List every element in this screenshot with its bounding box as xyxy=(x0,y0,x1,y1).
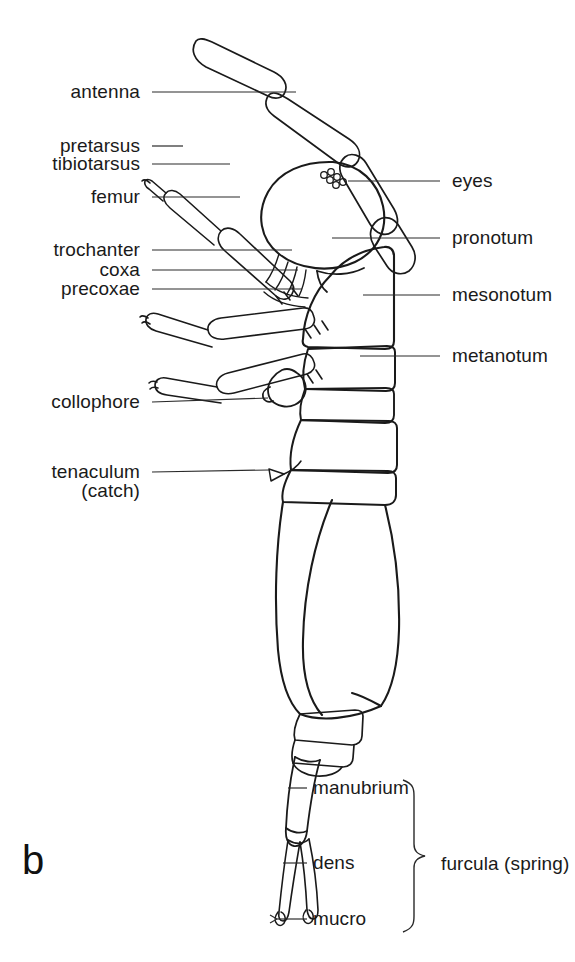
anatomy-label-dens: dens xyxy=(313,852,355,873)
anatomy-label-metanotum: metanotum xyxy=(452,345,548,366)
curly-brace-path xyxy=(403,780,425,932)
hindleg-drawing xyxy=(149,354,322,403)
anatomy-label-mesonotum: mesonotum xyxy=(452,284,552,305)
anatomy-label-catch: (catch) xyxy=(81,480,140,501)
furcula-brace xyxy=(403,780,425,932)
anatomy-label-tibiotarsus: tibiotarsus xyxy=(52,153,140,174)
abdomen-segment1-drawing xyxy=(300,388,394,423)
furcula-group-label: furcula (spring) xyxy=(441,853,569,874)
figure-container: antennapretarsustibiotarsusfemurtrochant… xyxy=(0,0,575,962)
eyes-drawing xyxy=(321,169,347,189)
abdomen-segment2-drawing xyxy=(290,420,397,473)
anatomy-label-trochanter: trochanter xyxy=(53,239,140,260)
pronotum-drawing xyxy=(317,268,364,292)
anatomy-label-mucro: mucro xyxy=(313,908,366,929)
midleg-drawing xyxy=(140,308,328,347)
mesonotum-drawing xyxy=(303,247,394,349)
panel-letter: b xyxy=(22,840,44,880)
anatomy-label-precoxae: precoxae xyxy=(61,278,140,299)
abdomen-segment3-drawing xyxy=(282,470,396,505)
anatomy-label-manubrium: manubrium xyxy=(313,777,409,798)
anatomy-label-antenna: antenna xyxy=(71,81,140,102)
anatomy-label-eyes: eyes xyxy=(452,170,493,191)
collophore-drawing xyxy=(263,369,306,407)
anatomy-label-pronotum: pronotum xyxy=(452,227,533,248)
anatomy-label-tenaculum: tenaculum xyxy=(51,461,140,482)
metanotum-drawing xyxy=(303,346,395,391)
abdomen-terminal-drawing xyxy=(292,710,363,776)
anatomy-label-collophore: collophore xyxy=(51,391,140,412)
leader-line xyxy=(152,470,269,472)
abdomen-large-drawing xyxy=(276,500,399,718)
manubrium-drawing xyxy=(286,757,320,846)
anatomy-label-femur: femur xyxy=(91,186,140,207)
foreleg-drawing xyxy=(142,180,298,305)
anatomy-label-coxa: coxa xyxy=(99,259,140,280)
